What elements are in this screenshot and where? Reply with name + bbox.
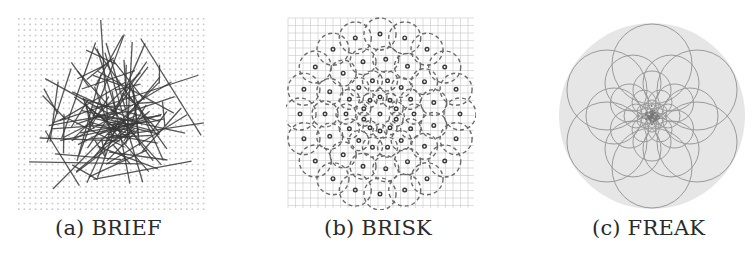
panel-brief [16,16,208,212]
brief-sampling-pattern [16,16,208,212]
panel-freak [556,18,750,214]
caption-freak: (c) FREAK [592,216,705,240]
caption-brisk: (b) BRISK [324,216,432,240]
freak-sampling-pattern [556,18,750,214]
brisk-sampling-pattern [286,16,476,210]
caption-brief: (a) BRIEF [55,216,162,240]
panel-brisk [286,16,476,210]
